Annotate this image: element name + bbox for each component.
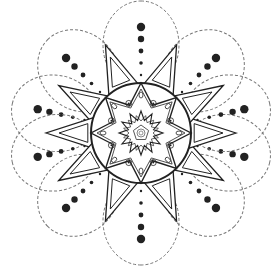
petal-dot — [62, 54, 70, 62]
eye-dot — [110, 120, 112, 122]
petal-dot — [137, 23, 145, 31]
petal-dot — [71, 63, 77, 69]
mandala-drawing — [0, 0, 276, 267]
petal-dot — [212, 54, 220, 62]
petal-dot — [34, 153, 42, 161]
petal-dot — [189, 181, 193, 185]
petal-dot — [197, 189, 202, 194]
eye-dot — [152, 162, 154, 164]
petal-dot — [181, 91, 183, 93]
eye-dot — [170, 120, 172, 122]
petal-dot — [139, 201, 143, 205]
petal-dot — [46, 109, 52, 115]
petal-dot — [240, 105, 248, 113]
petal-dot — [46, 151, 52, 157]
eye-dot — [128, 102, 130, 104]
petal-dot — [140, 190, 142, 192]
petal-dot — [99, 173, 101, 175]
petal-dot — [212, 204, 220, 212]
petal-dot — [139, 213, 144, 218]
petal-dot — [207, 115, 211, 119]
petal-dot — [204, 63, 210, 69]
petal-dot — [218, 112, 223, 117]
petal-dot — [181, 173, 183, 175]
petal-dot — [71, 196, 77, 202]
petal-dot — [137, 235, 145, 243]
eye-dot — [128, 162, 130, 164]
petal-dot — [204, 196, 210, 202]
petal-dot — [99, 91, 101, 93]
petal-dot — [197, 73, 202, 78]
petal-dot — [139, 49, 144, 54]
eye-dot — [152, 102, 154, 104]
eye-dot — [170, 144, 172, 146]
petal-dot — [139, 61, 143, 65]
petal-dot — [81, 189, 86, 194]
petal-dot — [34, 105, 42, 113]
petal-dot — [71, 147, 75, 151]
petal-dot — [138, 224, 144, 230]
petal-dot — [81, 73, 86, 78]
eye-dot — [110, 144, 112, 146]
petal-dot — [229, 109, 235, 115]
petal-dot — [62, 204, 70, 212]
outer-spike — [46, 118, 93, 149]
petal-dot — [138, 36, 144, 42]
outer-spike — [189, 118, 236, 149]
petal-dot — [90, 82, 94, 86]
petal-dot — [189, 82, 193, 86]
petal-dot — [240, 153, 248, 161]
petal-dot — [140, 74, 142, 76]
petal-dot — [90, 181, 94, 185]
petal-dot — [59, 149, 64, 154]
petal-dot — [229, 151, 235, 157]
